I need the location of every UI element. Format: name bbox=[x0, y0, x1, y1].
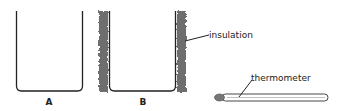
beaker-a-label: A bbox=[46, 97, 53, 107]
thermometer-icon bbox=[215, 94, 329, 101]
beaker-a bbox=[17, 11, 83, 91]
insulation-leader-line bbox=[185, 35, 209, 41]
diagram: A B insulation thermometer bbox=[0, 0, 344, 111]
thermometer-label: thermometer bbox=[251, 73, 311, 83]
beaker-b bbox=[110, 11, 176, 91]
beaker-b-label: B bbox=[140, 97, 147, 107]
insulation-layer bbox=[99, 11, 186, 92]
insulation-label: insulation bbox=[209, 30, 253, 40]
